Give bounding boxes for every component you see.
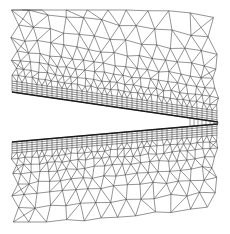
mesh-edges	[11, 10, 219, 222]
mesh-figure	[0, 0, 230, 234]
